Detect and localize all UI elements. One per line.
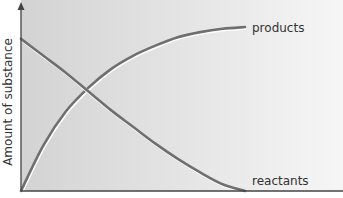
chart: Amount of substance products reactants	[0, 0, 343, 198]
annotation-products: products	[252, 21, 304, 35]
y-axis-label: Amount of substance	[1, 38, 15, 166]
annotation-reactants: reactants	[252, 174, 309, 188]
